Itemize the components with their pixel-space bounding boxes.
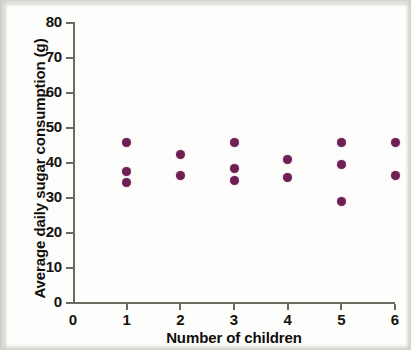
data-point [122,167,131,176]
data-point [337,138,346,147]
y-axis-tick-label-text: 10 [46,258,62,275]
x-axis-tick-label-text: 4 [283,311,291,328]
data-point [391,138,400,147]
data-point [283,173,292,182]
x-axis-tick [126,304,128,310]
data-point [337,197,346,206]
y-axis-tick-label-text: 80 [46,13,62,30]
y-axis-tick [66,127,73,129]
plot-area: 01020304050607080 0123456 Number of chil… [0,0,411,350]
x-axis-tick [179,304,181,310]
x-axis-title: Number of children [73,329,395,346]
y-axis-tick-label-text: 70 [46,48,62,65]
y-axis-tick-label-text: 30 [46,188,62,205]
y-axis-tick-label-text: 0 [54,293,62,310]
data-point [176,171,185,180]
x-axis-tick-label-text: 5 [337,311,345,328]
y-axis-tick [66,92,73,94]
x-axis-tick [287,304,289,310]
data-point [283,155,292,164]
data-point [230,164,239,173]
scatter-plot-figure: 01020304050607080 0123456 Number of chil… [0,0,411,350]
y-axis-tick [66,22,73,24]
x-axis-tick-label-text: 1 [122,311,130,328]
y-axis-tick-label-text: 40 [46,153,62,170]
x-axis-tick [394,304,396,310]
y-axis-tick-label-text: 20 [46,223,62,240]
y-axis-tick [66,302,73,304]
x-axis-tick-label-text: 6 [391,311,399,328]
x-axis-tick [233,304,235,310]
x-axis-tick-label-text: 3 [230,311,238,328]
x-axis-tick-label-text: 2 [176,311,184,328]
data-point [122,138,131,147]
data-point [122,178,131,187]
y-axis-tick [66,162,73,164]
y-axis-title: Average daily sugar consumption (g) [31,19,48,319]
y-axis-tick [66,267,73,269]
data-point [391,171,400,180]
y-axis-line [73,22,75,304]
data-point [337,160,346,169]
data-point [230,138,239,147]
y-axis-tick-label-text: 50 [46,118,62,135]
data-point [230,176,239,185]
y-axis-tick [66,197,73,199]
x-axis-tick-label-text: 0 [69,311,77,328]
y-axis-tick [66,232,73,234]
data-point [176,150,185,159]
y-axis-tick [66,57,73,59]
x-axis-tick [340,304,342,310]
y-axis-tick-label-text: 60 [46,83,62,100]
